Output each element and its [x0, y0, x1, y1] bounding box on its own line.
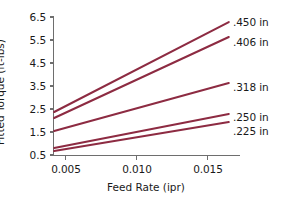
- y-tick-label-6.5: 6.5: [18, 11, 46, 23]
- y-tick-label-4.5: 4.5: [18, 57, 46, 69]
- x-axis-title: Feed Rate (ipr): [107, 181, 185, 193]
- y-axis-title: Fitted Torque (ft-lbs): [0, 39, 6, 145]
- series-lines: [54, 22, 229, 151]
- y-tick-label-1.5: 1.5: [18, 126, 46, 138]
- series-line-450in: [54, 22, 229, 112]
- series-label-318in: .318 in: [233, 81, 269, 93]
- y-axis-ticks: [50, 17, 54, 155]
- y-tick-label-5.5: 5.5: [18, 34, 46, 46]
- series-line-406in: [54, 37, 229, 118]
- series-line-250in: [54, 114, 229, 148]
- series-label-250in: .250 in: [233, 111, 269, 123]
- y-tick-label-3.5: 3.5: [18, 80, 46, 92]
- series-label-450in: .450 in: [233, 16, 269, 28]
- chart-figure: 6.5 5.5 4.5 3.5 2.5 1.5 0.5 0.005 0.010 …: [0, 0, 292, 197]
- x-tick-label-0.015: 0.015: [193, 163, 223, 175]
- x-axis-ticks: [66, 156, 208, 161]
- series-line-225in: [54, 122, 229, 151]
- y-tick-label-2.5: 2.5: [18, 103, 46, 115]
- x-tick-label-0.010: 0.010: [122, 163, 152, 175]
- series-line-318in: [54, 83, 229, 131]
- series-label-406in: .406 in: [233, 36, 269, 48]
- x-tick-label-0.005: 0.005: [51, 163, 81, 175]
- series-label-225in: .225 in: [233, 125, 269, 137]
- y-tick-label-0.5: 0.5: [18, 149, 46, 161]
